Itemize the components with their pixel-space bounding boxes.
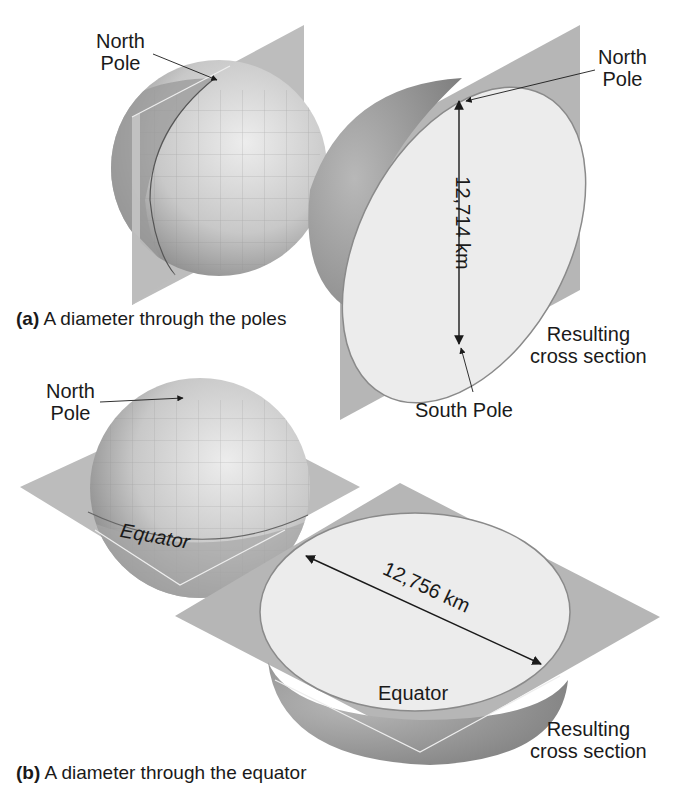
panel-a-result-label: Resulting cross section [530, 323, 647, 367]
panel-a-globe-north-pole-label: North Pole [96, 30, 145, 74]
caption-text: A diameter through the equator [45, 762, 307, 783]
panel-b-globe-north-pole-label: North Pole [46, 380, 95, 424]
caption-text: A diameter through the poles [43, 308, 286, 329]
label-line: Resulting [530, 323, 647, 345]
label-line: North [598, 46, 647, 68]
caption-letter: (a) [16, 308, 39, 329]
earth-cross-section-diagram [0, 0, 682, 792]
panel-b-section-equator-label: Equator [378, 682, 448, 704]
panel-b-result-label: Resulting cross section [530, 718, 647, 762]
label-line: Pole [96, 52, 145, 74]
label-line: Pole [598, 68, 647, 90]
panel-a-south-pole-label: South Pole [415, 399, 513, 421]
panel-a-section-north-pole-label: North Pole [598, 46, 647, 90]
label-line: Pole [46, 402, 95, 424]
label-line: North [46, 380, 95, 402]
panel-a-caption: (a) A diameter through the poles [16, 308, 286, 330]
panel-b-caption: (b) A diameter through the equator [16, 762, 306, 784]
label-line: cross section [530, 740, 647, 762]
label-line: Resulting [530, 718, 647, 740]
label-line: cross section [530, 345, 647, 367]
caption-letter: (b) [16, 762, 40, 783]
label-line: North [96, 30, 145, 52]
panel-a-measurement-label: 12,714 km [452, 176, 474, 269]
